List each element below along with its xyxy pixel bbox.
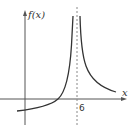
x-axis-label: x xyxy=(122,87,128,98)
asymptote-tick-label: 6 xyxy=(79,103,85,113)
function-graph: f(x) x 6 xyxy=(0,0,138,131)
curve-right-branch xyxy=(80,16,116,92)
y-axis-label: f(x) xyxy=(27,9,45,20)
y-axis-arrow-icon xyxy=(23,10,27,16)
